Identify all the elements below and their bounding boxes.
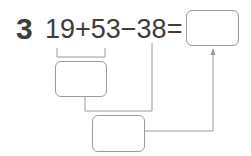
step2-box[interactable]: [92, 115, 145, 152]
arrow-up-icon: [211, 48, 216, 55]
step1-box[interactable]: [55, 61, 107, 97]
answer-box[interactable]: [186, 10, 239, 46]
